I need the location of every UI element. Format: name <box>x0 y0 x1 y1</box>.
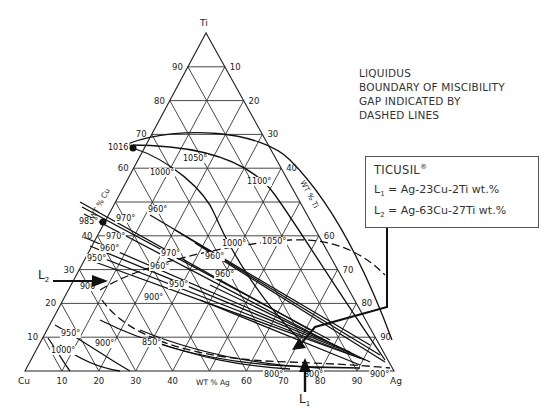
isotherm-temperature-label: 1000° <box>51 346 75 355</box>
l1-marker-label: L1 <box>299 392 310 408</box>
isotherm-temperature-label: 850° <box>142 338 161 347</box>
right-axis-tick: 10 <box>230 62 241 72</box>
isotherm-temperature-label: 1100° <box>247 177 271 186</box>
vertex-ag-label: Ag <box>390 376 402 386</box>
right-axis-tick: 70 <box>343 265 354 275</box>
legend-line: LIQUIDUS <box>359 66 505 80</box>
isotherm-temperature-label: 1050° <box>262 237 286 246</box>
left-axis-tick: 90 <box>172 62 183 72</box>
bottom-axis-tick: 40 <box>167 376 178 386</box>
ticusil-callout-box: TICUSIL® L1 = Ag-23Cu-2Ti wt.% L2 = Ag-6… <box>365 156 539 228</box>
isotherm-temperature-label: 1000° <box>150 168 174 177</box>
l1-marker-symbol: L <box>299 392 306 406</box>
left-axis-tick: 30 <box>63 265 74 275</box>
left-axis-tick: 10 <box>27 332 38 342</box>
isotherm-temperature-label: 950° <box>169 280 188 289</box>
callout-l1-row: L1 = Ag-23Cu-2Ti wt.% <box>374 183 530 198</box>
bottom-axis-tick: 60 <box>241 376 252 386</box>
l2-composition: = Ag-63Cu-27Ti wt.% <box>388 204 506 217</box>
bottom-axis-tick: 80 <box>315 376 326 386</box>
isotherm-temperature-label: 900° <box>370 370 389 379</box>
isotherm-temperature-label: 900° <box>144 293 163 302</box>
legend-note: LIQUIDUS BOUNDARY OF MISCIBILITY GAP IND… <box>359 66 505 122</box>
right-axis-tick: 60 <box>324 231 335 241</box>
bottom-axis-tick: 10 <box>56 376 67 386</box>
legend-line: GAP INDICATED BY <box>359 94 505 108</box>
bottom-axis-tick: 30 <box>130 376 141 386</box>
isotherm-temperature-label: 960° <box>215 270 234 279</box>
right-axis-tick: 90 <box>380 332 391 342</box>
left-axis-tick: 40 <box>82 231 93 241</box>
callout-title: TICUSIL® <box>374 163 530 177</box>
bottom-axis-tick: 90 <box>352 376 363 386</box>
l1-composition: = Ag-23Cu-2Ti wt.% <box>388 183 499 196</box>
callout-l2-row: L2 = Ag-63Cu-27Ti wt.% <box>374 204 530 219</box>
left-axis-tick: 70 <box>136 129 147 139</box>
right-axis-tick: 80 <box>361 298 372 308</box>
vertex-ti-label: Ti <box>199 18 208 28</box>
l2-marker-sub: 2 <box>45 276 49 284</box>
l1-marker-sub: 1 <box>306 400 310 408</box>
point-1016 <box>130 145 137 152</box>
isotherm-temperature-label: 960° <box>150 262 169 271</box>
isotherm-temperature-label: 950° <box>61 329 80 338</box>
isotherm-temperature-label: 970° <box>161 249 180 258</box>
temperature-labels: 1016°1050°1000°1100°960°970°985°970°960°… <box>50 143 390 379</box>
left-axis-tick: 60 <box>118 163 129 173</box>
l2-subscript: 2 <box>380 211 384 219</box>
isotherm-temperature-label: 960° <box>148 205 167 214</box>
isotherm-temperature-label: 960° <box>100 244 119 253</box>
l1-subscript: 1 <box>380 190 384 198</box>
axis-name-ag: WT % Ag <box>196 378 230 387</box>
right-axis-tick: 20 <box>249 96 260 106</box>
right-axis-tick: 40 <box>286 163 297 173</box>
left-axis-tick: 80 <box>154 96 165 106</box>
isotherm-temperature-label: 1016° <box>108 143 132 152</box>
isotherm-temperature-label: 1000° <box>222 239 246 248</box>
registered-mark: ® <box>420 163 427 171</box>
left-axis-tick: 20 <box>45 298 56 308</box>
right-axis-tick: 30 <box>267 129 278 139</box>
l2-marker-label: L2 <box>38 268 49 284</box>
callout-title-text: TICUSIL <box>374 163 420 177</box>
isotherm-temperature-label: 1050° <box>183 154 207 163</box>
isotherm-temperature-label: 960° <box>205 252 224 261</box>
l2-marker-symbol: L <box>38 268 45 282</box>
legend-line: BOUNDARY OF MISCIBILITY <box>359 80 505 94</box>
isotherm-temperature-label: 970° <box>116 214 135 223</box>
bottom-axis-tick: 20 <box>93 376 104 386</box>
point-985 <box>100 219 107 226</box>
isotherm-temperature-label: 970° <box>106 232 125 241</box>
isotherm-temperature-label: 900° <box>95 339 114 348</box>
vertex-cu-label: Cu <box>18 376 30 386</box>
legend-line: DASHED LINES <box>359 108 505 122</box>
isotherm-temperature-label: 950° <box>87 254 106 263</box>
bottom-axis-tick: 70 <box>278 376 289 386</box>
